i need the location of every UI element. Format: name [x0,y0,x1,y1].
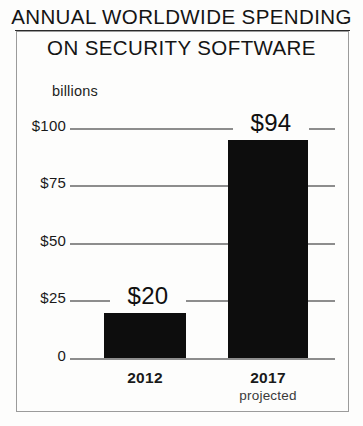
y-tick-25-label: $25 [12,289,66,306]
y-axis-unit-label: billions [52,83,98,99]
y-tick-0-label: 0 [12,347,66,364]
bar-value-2017: $94 [233,110,309,136]
x-label-2017-year: 2017 [208,368,328,387]
bar-value-2012: $20 [110,283,186,309]
chart-title-line-1: ANNUAL WORLDWIDE SPENDING [0,4,363,29]
x-label-2017: 2017 projected [208,368,328,404]
y-tick-75-label: $75 [12,174,66,191]
x-label-2012-year: 2012 [85,368,205,387]
y-tick-100-label: $100 [12,117,66,134]
x-label-2017-note: projected [208,387,328,404]
x-label-2012: 2012 [85,368,205,387]
bar-2012 [104,313,186,358]
gridline-0-axis [70,358,335,360]
bar-2017 [228,140,308,358]
y-tick-50-label: $50 [12,232,66,249]
